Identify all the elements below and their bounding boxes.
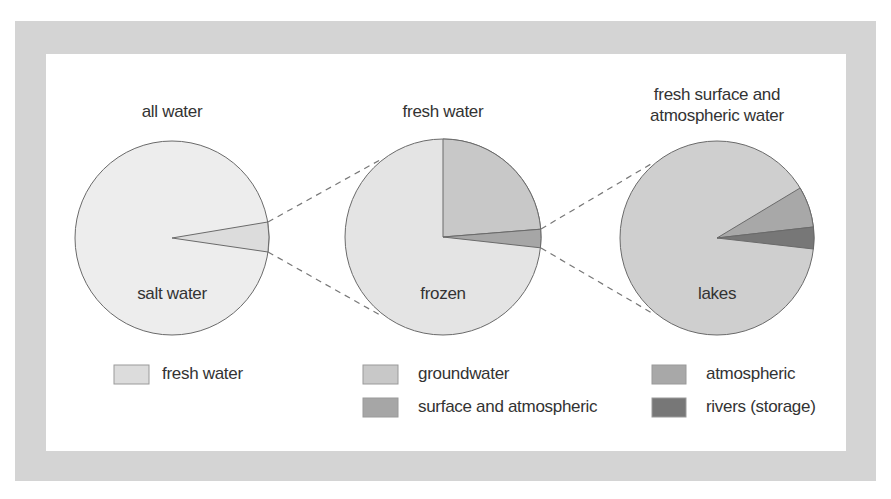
pie-title-line-2: atmospheric water [650,105,784,126]
pie-title-line-1: fresh surface and [650,84,784,105]
legend-label-rivers: rivers (storage) [706,397,816,417]
slice-groundwater [443,139,541,237]
legend-swatch-atmospheric [652,365,686,384]
pie-fresh-water [345,139,541,335]
slice-label-salt-water: salt water [137,284,207,304]
legend-swatch-rivers [652,398,686,417]
slice-label-lakes: lakes [698,284,736,304]
pie-title-fresh-surface-atmospheric: fresh surface and atmospheric water [650,84,784,126]
legend-label-atmospheric: atmospheric [706,364,795,384]
legend-label-groundwater: groundwater [418,364,509,384]
legend-label-surface-and-atmospheric: surface and atmospheric [418,397,597,417]
legend-swatch-fresh-water [114,365,149,384]
pie-charts [0,0,891,499]
legend-label-fresh-water: fresh water [162,364,243,384]
pie-title-all-water: all water [142,102,203,122]
legend-swatch-surface-and-atmospheric [363,398,398,417]
slice-label-frozen: frozen [420,284,465,304]
pie-all-water [75,141,269,335]
pie-title-fresh-water: fresh water [403,102,484,122]
pie-fresh-surface-atmospheric [620,141,814,335]
legend-swatch-groundwater [363,365,398,384]
